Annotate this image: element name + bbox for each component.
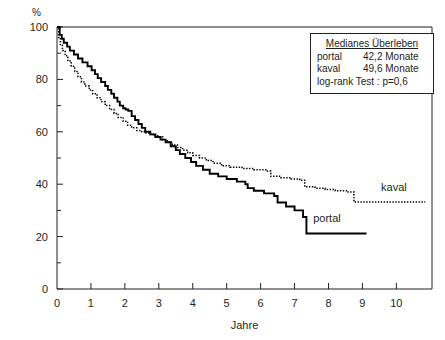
x-tick-label: 9: [359, 297, 365, 309]
x-tick-label: 1: [88, 297, 94, 309]
legend-row-portal: portal 42,2 Monate: [317, 51, 427, 63]
x-tick-label: 0: [54, 297, 60, 309]
x-tick-label: 8: [325, 297, 331, 309]
y-tick-label: 100: [30, 21, 48, 33]
x-tick-label: 5: [224, 297, 230, 309]
curve-label-portal: portal: [313, 212, 341, 224]
log-rank-test-result: log-rank Test : p=0,6: [317, 76, 427, 88]
y-tick-label: 40: [36, 178, 48, 190]
x-tick-label: 7: [291, 297, 297, 309]
x-tick-label: 4: [190, 297, 196, 309]
x-axis-title: Jahre: [231, 319, 259, 331]
y-axis-unit-label: %: [32, 7, 41, 18]
curve-label-kaval: kaval: [381, 181, 407, 193]
legend-key-portal: portal: [317, 51, 363, 63]
legend-title: Medianes Überleben: [317, 38, 427, 49]
legend-row-kaval: kaval 49,6 Monate: [317, 63, 427, 75]
legend-value-kaval: 49,6 Monate: [363, 63, 427, 75]
y-tick-label: 80: [36, 73, 48, 85]
x-tick-label: 2: [122, 297, 128, 309]
survival-chart-figure: 020406080100012345678910%Jahre portalkav…: [0, 0, 445, 340]
y-tick-label: 60: [36, 126, 48, 138]
x-tick-label: 10: [390, 297, 402, 309]
x-tick-label: 3: [156, 297, 162, 309]
legend-value-portal: 42,2 Monate: [363, 51, 427, 63]
median-survival-box: Medianes Überleben portal 42,2 Monate ka…: [310, 33, 434, 94]
x-tick-label: 6: [258, 297, 264, 309]
y-tick-label: 20: [36, 231, 48, 243]
legend-key-kaval: kaval: [317, 63, 363, 75]
y-tick-label: 0: [42, 283, 48, 295]
